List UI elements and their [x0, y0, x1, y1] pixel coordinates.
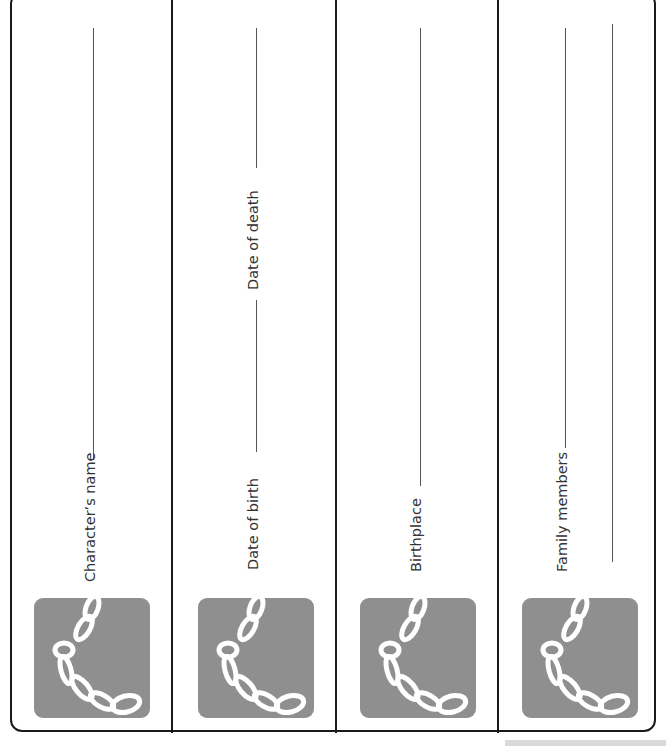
date-of-birth-label: Date of birth: [245, 478, 261, 570]
date-of-death-label: Date of death: [245, 190, 261, 290]
family-write-line-1[interactable]: [565, 28, 566, 448]
column-divider: [171, 0, 173, 733]
birthplace-write-line[interactable]: [420, 28, 421, 486]
family-members-label: Family members: [554, 452, 570, 572]
birth-date-write-line[interactable]: [256, 300, 257, 452]
chain-icon: [522, 598, 638, 718]
chain-icon: [198, 598, 314, 718]
footer-bar: [505, 740, 666, 746]
column-divider: [497, 0, 499, 733]
birthplace-label: Birthplace: [408, 498, 424, 572]
death-date-write-line[interactable]: [256, 28, 257, 168]
chain-icon: [360, 598, 476, 718]
family-write-line-2[interactable]: [612, 24, 613, 562]
name-write-line[interactable]: [93, 28, 94, 460]
chain-icon: [34, 598, 150, 718]
column-divider: [335, 0, 337, 733]
character-name-label: Character’s name: [82, 453, 98, 582]
